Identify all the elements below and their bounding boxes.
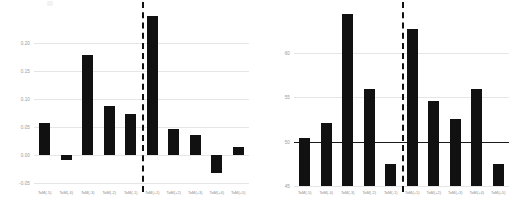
y-axis-tick-label: 50 bbox=[285, 139, 290, 144]
x-axis-tick-label: ToM(+5) bbox=[231, 190, 246, 195]
x-axis-tick-label: ToM(-5) bbox=[38, 190, 52, 195]
x-axis-tick-label: ToM(-4) bbox=[319, 190, 333, 195]
bar bbox=[428, 101, 439, 186]
bar bbox=[104, 106, 115, 155]
y-axis-tick-label: 0.00 bbox=[21, 153, 30, 158]
bar bbox=[61, 155, 72, 159]
bar bbox=[493, 164, 504, 186]
x-axis-tick-label: ToM(+3) bbox=[448, 190, 463, 195]
x-axis-tick-label: ToM(-5) bbox=[298, 190, 312, 195]
x-axis-tick-label: ToM(+4) bbox=[209, 190, 224, 195]
bar bbox=[82, 55, 93, 156]
x-axis-tick-label: ToM(-2) bbox=[102, 190, 116, 195]
plot-area-left: 0.200.150.100.050.00-0.05 bbox=[34, 8, 249, 186]
bar bbox=[147, 16, 158, 155]
x-axis-tick-label: ToM(-1) bbox=[124, 190, 138, 195]
y-axis-tick-label: 45 bbox=[285, 184, 290, 189]
x-axis-tick-label: ToM(+4) bbox=[469, 190, 484, 195]
bar bbox=[190, 135, 201, 155]
x-axis-tick-label: ToM(-3) bbox=[81, 190, 95, 195]
y-axis-tick-label: 0.05 bbox=[21, 125, 30, 130]
y-axis-tick-label: 0.15 bbox=[21, 68, 30, 73]
x-axis-tick-label: ToM(+1) bbox=[405, 190, 420, 195]
bar bbox=[125, 114, 136, 156]
bar bbox=[385, 164, 396, 186]
y-axis-tick-label: 0.20 bbox=[21, 40, 30, 45]
bar bbox=[321, 123, 332, 186]
y-axis-tick-label: -0.05 bbox=[19, 181, 30, 186]
bar bbox=[168, 129, 179, 155]
x-axis-tick-label: ToM(-3) bbox=[341, 190, 355, 195]
bar bbox=[407, 29, 418, 186]
x-axis-tick-label: ToM(+1) bbox=[145, 190, 160, 195]
y-axis-tick-label: 0.10 bbox=[21, 96, 30, 101]
x-axis-tick-labels-right: ToM(-5)ToM(-4)ToM(-3)ToM(-2)ToM(-1)ToM(+… bbox=[294, 190, 509, 206]
x-axis-tick-label: ToM(+2) bbox=[166, 190, 181, 195]
x-axis-tick-label: ToM(-1) bbox=[384, 190, 398, 195]
artifact-mark bbox=[47, 1, 53, 6]
bar bbox=[450, 119, 461, 186]
bar bbox=[233, 147, 244, 155]
chart-panel-left: 0.200.150.100.050.00-0.05 ToM(-5)ToM(-4)… bbox=[0, 0, 260, 216]
bar bbox=[342, 14, 353, 186]
bar bbox=[39, 123, 50, 156]
bar bbox=[211, 155, 222, 172]
y-axis-tick-label: 55 bbox=[285, 95, 290, 100]
divider-dashed-line-right bbox=[402, 2, 404, 192]
figure-two-panel-bar-charts: 0.200.150.100.050.00-0.05 ToM(-5)ToM(-4)… bbox=[0, 0, 521, 216]
x-axis-tick-labels-left: ToM(-5)ToM(-4)ToM(-3)ToM(-2)ToM(-1)ToM(+… bbox=[34, 190, 249, 206]
x-axis-tick-label: ToM(+5) bbox=[491, 190, 506, 195]
bar bbox=[299, 138, 310, 186]
x-axis-tick-label: ToM(-2) bbox=[362, 190, 376, 195]
x-axis-tick-label: ToM(+3) bbox=[188, 190, 203, 195]
plot-area-right: 60555045 bbox=[294, 8, 509, 186]
y-axis-tick-label: 60 bbox=[285, 50, 290, 55]
x-axis-tick-label: ToM(+2) bbox=[426, 190, 441, 195]
bar bbox=[471, 89, 482, 186]
x-axis-tick-label: ToM(-4) bbox=[59, 190, 73, 195]
chart-panel-right: 60555045 ToM(-5)ToM(-4)ToM(-3)ToM(-2)ToM… bbox=[260, 0, 520, 216]
divider-dashed-line-left bbox=[142, 2, 144, 192]
bar bbox=[364, 89, 375, 186]
